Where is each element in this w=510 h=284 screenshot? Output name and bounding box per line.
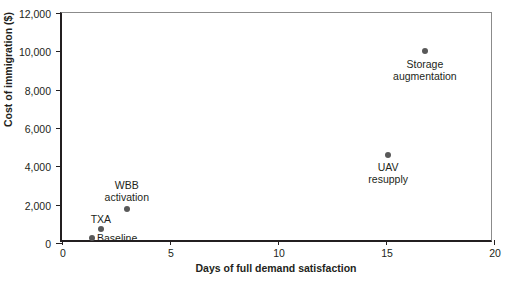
data-label-uav-line2: resupply bbox=[368, 173, 408, 185]
y-tick-label-0: 0 bbox=[45, 238, 51, 250]
y-tick-6000: 6,000 bbox=[56, 128, 62, 129]
x-tick-label-10: 10 bbox=[273, 247, 285, 259]
data-label-baseline: Baseline bbox=[97, 232, 137, 244]
y-tick-label-10000: 10,000 bbox=[19, 46, 51, 58]
x-tick-label-0: 0 bbox=[60, 247, 66, 259]
y-tick-2000: 2,000 bbox=[56, 205, 62, 206]
plot-area: 12,000 10,000 8,000 6,000 4,000 2,000 0 … bbox=[60, 12, 492, 242]
y-tick-12000: 12,000 bbox=[56, 13, 62, 14]
x-tick-label-20: 20 bbox=[489, 247, 501, 259]
data-point-txa[interactable] bbox=[98, 226, 104, 232]
x-tick-5: 5 bbox=[170, 240, 171, 245]
x-tick-15: 15 bbox=[386, 240, 387, 245]
data-point-baseline[interactable] bbox=[89, 235, 95, 241]
x-tick-10: 10 bbox=[278, 240, 279, 245]
data-label-uav-resupply: UAV resupply bbox=[368, 161, 408, 185]
data-label-wbb-line2: activation bbox=[105, 191, 149, 203]
data-point-storage-augmentation[interactable] bbox=[422, 48, 428, 54]
y-tick-label-6000: 6,000 bbox=[25, 123, 51, 135]
data-point-wbb-activation[interactable] bbox=[124, 206, 130, 212]
y-axis-title: Cost of immigration ($) bbox=[2, 12, 14, 127]
data-label-storage-line2: augmentation bbox=[393, 70, 457, 82]
y-tick-8000: 8,000 bbox=[56, 90, 62, 91]
x-tick-label-5: 5 bbox=[168, 247, 174, 259]
x-tick-20: 20 bbox=[494, 240, 495, 245]
y-tick-label-4000: 4,000 bbox=[25, 161, 51, 173]
x-tick-0: 0 bbox=[62, 240, 63, 245]
data-label-storage-line1: Storage bbox=[393, 58, 457, 70]
x-tick-label-15: 15 bbox=[381, 247, 393, 259]
data-label-txa: TXA bbox=[91, 213, 111, 225]
y-tick-label-2000: 2,000 bbox=[25, 200, 51, 212]
data-label-uav-line1: UAV bbox=[368, 161, 408, 173]
data-label-wbb-line1: WBB bbox=[105, 179, 149, 191]
data-label-storage-augmentation: Storage augmentation bbox=[393, 58, 457, 82]
y-tick-label-8000: 8,000 bbox=[25, 85, 51, 97]
data-label-wbb-activation: WBB activation bbox=[105, 179, 149, 203]
y-tick-label-12000: 12,000 bbox=[19, 8, 51, 20]
y-tick-10000: 10,000 bbox=[56, 51, 62, 52]
y-tick-4000: 4,000 bbox=[56, 166, 62, 167]
x-axis-title: Days of full demand satisfaction bbox=[60, 262, 492, 274]
data-point-uav-resupply[interactable] bbox=[385, 152, 391, 158]
scatter-chart-figure: Cost of immigration ($) 12,000 10,000 8,… bbox=[0, 0, 510, 284]
